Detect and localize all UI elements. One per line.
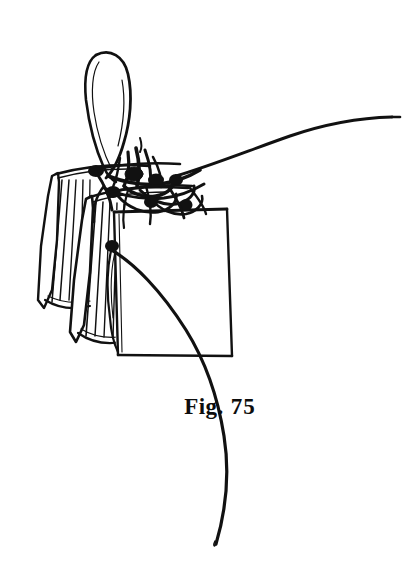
figure-illustration: Fig.75 — [0, 0, 415, 571]
line-drawing-canvas — [0, 0, 415, 571]
front-section-panel — [108, 209, 232, 357]
